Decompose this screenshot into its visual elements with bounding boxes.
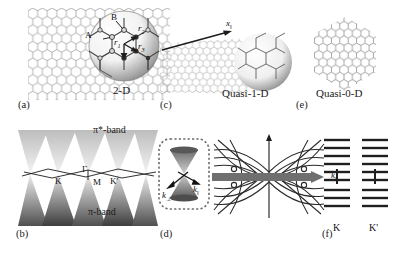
- panel-f-tag: (f): [322, 228, 333, 239]
- bz-point-kprime: K': [110, 176, 118, 186]
- valley-label-kprime: K': [369, 222, 378, 233]
- k-parallel-axis-bar: [212, 171, 324, 183]
- panel-f-energy-levels: K K': [322, 136, 392, 220]
- bz-point-gamma: Γ: [82, 164, 87, 174]
- upper-cone: [170, 150, 198, 174]
- panel-e-caption: Quasi-0-D: [316, 87, 362, 99]
- panel-c-caption: Quasi-1-D: [222, 87, 268, 99]
- pi-band-label: π-band: [88, 206, 116, 217]
- sublattice-b-label: B: [111, 12, 117, 22]
- pi-star-band-surface: [18, 130, 158, 174]
- quasi-0d-flake: [302, 14, 388, 96]
- axis-label-k-perp: k⊥: [162, 190, 171, 202]
- vector-r3-label: r3: [138, 41, 145, 53]
- panel-c-tag: (c): [160, 99, 172, 110]
- pi-star-band-label: π*-band: [93, 124, 126, 135]
- vector-r2-label: r2: [138, 23, 145, 35]
- nanotube-cap: [234, 33, 292, 91]
- panel-a-dimension-label: 2-D: [113, 84, 130, 96]
- pi-band-surface: [18, 174, 158, 226]
- graphene-2d-lattice: [28, 8, 170, 100]
- bz-point-m: M: [93, 177, 101, 187]
- vector-r1-label: r1: [114, 37, 121, 49]
- axis-label-k-parallel-cone: k‖: [193, 184, 199, 196]
- figure-root: A B r1 r2 r3 2-D (a): [0, 0, 398, 256]
- bz-point-k: K: [55, 176, 62, 186]
- axis-label-x-parallel: x‖: [226, 18, 232, 30]
- panel-e-graphene-dot: [302, 14, 388, 96]
- valley-label-k: K: [333, 222, 340, 233]
- sublattice-a-label: A: [85, 30, 92, 40]
- panel-b-tag: (b): [16, 228, 28, 239]
- panel-d-dirac-cone: k⊥ k‖: [158, 138, 210, 210]
- subband-curves: [212, 132, 327, 222]
- discrete-level-ladders: [322, 136, 392, 220]
- panel-e-tag: (e): [296, 99, 308, 110]
- panel-a-tag: (a): [18, 99, 30, 110]
- panel-d-subband-dispersion: k‖: [212, 132, 327, 222]
- panel-a-graphene-sheet: A B r1 r2 r3: [28, 8, 170, 100]
- upper-cone-rim: [170, 146, 198, 153]
- panel-d-tag: (d): [160, 228, 172, 239]
